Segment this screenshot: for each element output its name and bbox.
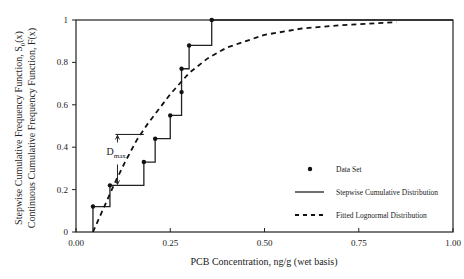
y-axis-title-line-2: Continuous Cumulative Frequency Function… <box>26 28 38 228</box>
chart: 0.000.250.500.751.0000.20.40.60.81 Dmax … <box>0 0 464 279</box>
y-axis-title-line-1: Stepwise Cumulative Frequency Function, … <box>13 31 27 225</box>
y-tick-label: 0.6 <box>57 100 69 110</box>
y-tick-label: 0.4 <box>57 142 69 152</box>
legend-label-lognormal: Fitted Lognormal Distribution <box>336 211 427 220</box>
annotation-layer: Dmax <box>106 134 143 184</box>
x-tick-label: 0.25 <box>162 238 178 248</box>
x-tick-label: 0.50 <box>257 238 273 248</box>
fitted-lognormal-curve <box>93 22 396 232</box>
data-point <box>91 204 95 208</box>
legend-label-data-set: Data Set <box>336 165 363 174</box>
data-point <box>179 67 183 71</box>
x-tick-label: 0.75 <box>351 238 367 248</box>
legend-marker-data-set <box>308 167 312 171</box>
y-axis-title: Stepwise Cumulative Frequency Function, … <box>13 28 38 228</box>
y-tick-label: 0 <box>64 227 69 237</box>
data-point <box>168 113 172 117</box>
data-point <box>187 43 191 47</box>
y-tick-label: 0.2 <box>57 185 68 195</box>
plot-frame <box>76 20 453 232</box>
data-point <box>142 160 146 164</box>
x-axis-title: PCB Concentration, ng/g (wet basis) <box>191 256 338 268</box>
legend: Data SetStepwise Cumulative Distribution… <box>295 165 438 220</box>
dmax-label: Dmax <box>106 146 126 160</box>
data-point <box>210 18 214 22</box>
y-tick-label: 1 <box>64 15 69 25</box>
x-tick-label: 1.00 <box>445 238 461 248</box>
series-layer <box>91 18 453 232</box>
data-point <box>153 137 157 141</box>
y-tick-label: 0.8 <box>57 57 69 67</box>
x-tick-label: 0.00 <box>68 238 84 248</box>
legend-label-stepwise: Stepwise Cumulative Distribution <box>336 188 438 197</box>
data-point <box>179 90 183 94</box>
data-point <box>108 183 112 187</box>
